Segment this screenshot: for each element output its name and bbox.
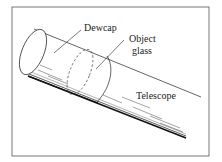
label-dewcap: Dewcap <box>84 22 117 33</box>
dewcap-diagram: Dewcap Object glass Telescope <box>0 0 222 162</box>
label-object-glass-line2: glass <box>132 45 152 56</box>
dewcap-front-rim <box>14 26 52 79</box>
diagram-canvas: Dewcap Object glass Telescope <box>0 0 222 162</box>
telescope-top-edge <box>34 29 201 97</box>
dewcap-rear-rim <box>97 56 111 102</box>
label-object-glass-line1: Object <box>129 33 156 44</box>
telescope-bottom-edge <box>28 72 186 138</box>
object-glass-leader-line <box>96 40 124 69</box>
object-glass <box>62 46 99 98</box>
label-telescope: Telescope <box>136 90 176 101</box>
dewcap-leader-line <box>54 30 81 53</box>
